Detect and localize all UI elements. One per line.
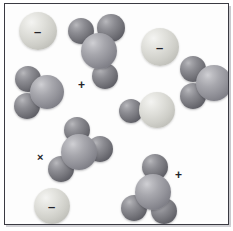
figure-frame-shadow-bottom	[6, 225, 231, 227]
negative-charge-label: –	[48, 200, 55, 213]
atom-sphere	[61, 134, 97, 170]
diagram-canvas: –+–×+–	[5, 4, 228, 224]
negative-charge-label: –	[34, 25, 41, 38]
figure-frame-shadow-right	[229, 6, 231, 227]
atom-sphere	[139, 92, 175, 128]
times-mark-label: ×	[37, 152, 43, 163]
positive-charge-label: +	[175, 169, 182, 181]
atom-sphere	[135, 174, 171, 210]
atom-sphere	[81, 33, 117, 69]
positive-charge-label: +	[78, 79, 85, 91]
atom-sphere	[30, 75, 64, 109]
atom-sphere	[196, 65, 228, 101]
particle-diagram-figure: –+–×+–	[0, 0, 233, 231]
negative-charge-label: –	[156, 41, 163, 54]
